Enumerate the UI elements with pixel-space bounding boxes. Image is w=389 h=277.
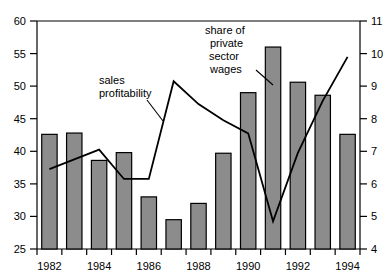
left-tick-label: 45	[14, 113, 26, 125]
left-tick-label: 40	[14, 145, 26, 157]
annotation-share-of-private-sector-wages: share of private sector wages	[205, 24, 273, 85]
left-axis-tick: 50	[14, 80, 37, 92]
x-tick-label-1986: 1986	[137, 260, 161, 272]
annotation-leader-line	[147, 100, 163, 121]
right-axis-tick: 10	[360, 48, 383, 60]
annotation-line-2: private	[210, 37, 243, 49]
right-axis-tick: 6	[360, 178, 377, 190]
left-tick-label: 55	[14, 48, 26, 60]
right-tick-label: 11	[371, 15, 382, 27]
x-tick-label-1984: 1984	[87, 260, 111, 272]
bar-1987	[166, 220, 181, 249]
annotation-line-2: profitability	[99, 87, 152, 99]
left-axis-tick: 35	[14, 178, 37, 190]
left-tick-label: 30	[14, 210, 26, 222]
left-axis-tick: 55	[14, 48, 37, 60]
x-tick-label-1982: 1982	[37, 260, 61, 272]
right-tick-label: 4	[371, 243, 377, 255]
x-tick-label-1994: 1994	[335, 260, 359, 272]
annotation-line-1: share of	[205, 24, 246, 36]
left-tick-label: 50	[14, 80, 26, 92]
x-tick-label-1992: 1992	[286, 260, 310, 272]
right-axis-tick: 8	[360, 113, 377, 125]
annotation-line-4: wages	[209, 63, 242, 75]
bar-1993	[315, 95, 330, 249]
right-axis-tick: 11	[360, 15, 382, 27]
right-axis-tick: 4	[360, 243, 377, 255]
left-axis-tick: 25	[14, 243, 37, 255]
bar-1983	[67, 133, 82, 249]
right-tick-label: 10	[371, 48, 383, 60]
bar-1988	[191, 203, 206, 249]
x-tick-label-1990: 1990	[236, 260, 260, 272]
chart-container: 60 55 50 45 40 35	[0, 0, 389, 277]
annotation-line-3: sector	[209, 50, 239, 62]
left-axis-tick: 40	[14, 145, 37, 157]
right-tick-label: 5	[371, 210, 377, 222]
left-tick-label: 35	[14, 178, 26, 190]
right-tick-label: 6	[371, 178, 377, 190]
bar-1986	[141, 197, 156, 249]
x-axis: 1982198419861988199019921994	[37, 249, 360, 272]
bar-1990	[240, 93, 255, 249]
left-axis-tick: 60	[14, 15, 37, 27]
bar-1994	[340, 134, 355, 249]
x-tick-label-1988: 1988	[186, 260, 210, 272]
left-axis-tick: 30	[14, 210, 37, 222]
right-tick-label: 8	[371, 113, 377, 125]
right-axis-tick: 7	[360, 145, 377, 157]
annotation-sales-profitability: sales profitability	[99, 74, 163, 121]
right-axis-tick: 5	[360, 210, 377, 222]
left-axis-tick: 45	[14, 113, 37, 125]
left-tick-label: 60	[14, 15, 26, 27]
dual-axis-bar-line-chart: 60 55 50 45 40 35	[0, 0, 389, 277]
bar-1982	[42, 134, 57, 249]
right-axis: 11 10 9 8 7 6	[360, 15, 383, 255]
bar-series-share-of-private-sector-wages	[42, 47, 356, 249]
annotation-line-1: sales	[99, 74, 125, 86]
left-axis: 60 55 50 45 40 35	[14, 15, 37, 255]
bar-1985	[116, 153, 131, 249]
bar-1984	[91, 160, 106, 249]
right-tick-label: 9	[371, 80, 377, 92]
right-axis-tick: 9	[360, 80, 377, 92]
left-tick-label: 25	[14, 243, 26, 255]
bar-1989	[216, 153, 231, 249]
right-tick-label: 7	[371, 145, 377, 157]
